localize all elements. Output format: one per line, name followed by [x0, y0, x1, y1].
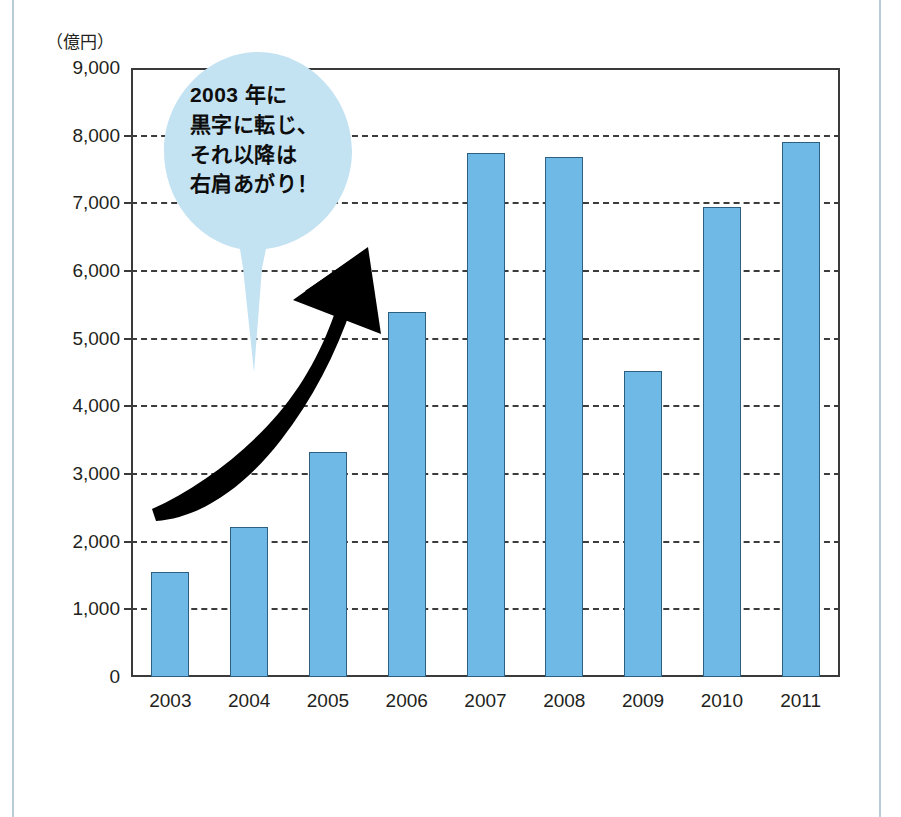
x-tick-label-2004: 2004 [228, 690, 270, 712]
y-tick-mark [124, 541, 133, 543]
y-tick-mark [124, 473, 133, 475]
bar-2007 [467, 153, 505, 677]
y-tick-label: 5,000 [44, 328, 120, 350]
page-canvas: （億円） 01,0002,0003,0004,0005,0006,0007,00… [0, 0, 901, 817]
bar-2008 [545, 157, 583, 677]
bar-2011 [782, 142, 820, 677]
y-tick-label: 1,000 [44, 598, 120, 620]
x-tick-label-2010: 2010 [701, 690, 743, 712]
bar-2004 [230, 527, 268, 677]
y-tick-mark [124, 405, 133, 407]
bar-2006 [388, 312, 426, 677]
y-tick-label: 6,000 [44, 260, 120, 282]
y-tick-label: 8,000 [44, 125, 120, 147]
gridline [131, 135, 840, 137]
y-tick-mark [124, 608, 133, 610]
bar-2009 [624, 371, 662, 677]
y-tick-mark [124, 338, 133, 340]
y-tick-mark [124, 135, 133, 137]
y-tick-label: 4,000 [44, 395, 120, 417]
y-axis-unit-label: （億円） [46, 28, 114, 53]
bar-2010 [703, 207, 741, 677]
bar-2003 [151, 572, 189, 677]
y-tick-label: 7,000 [44, 192, 120, 214]
x-tick-label-2011: 2011 [780, 690, 821, 712]
y-tick-label: 0 [44, 666, 120, 688]
x-tick-label-2003: 2003 [149, 690, 191, 712]
x-tick-label-2005: 2005 [307, 690, 349, 712]
y-tick-label: 9,000 [44, 57, 120, 79]
y-tick-label: 3,000 [44, 463, 120, 485]
x-tick-label-2006: 2006 [386, 690, 428, 712]
bar-2005 [309, 452, 347, 677]
y-tick-label: 2,000 [44, 531, 120, 553]
y-tick-mark [124, 270, 133, 272]
x-tick-label-2008: 2008 [543, 690, 585, 712]
bar-chart-figure: （億円） 01,0002,0003,0004,0005,0006,0007,00… [0, 0, 901, 817]
x-tick-label-2009: 2009 [622, 690, 664, 712]
x-tick-label-2007: 2007 [464, 690, 506, 712]
y-tick-mark [124, 202, 133, 204]
